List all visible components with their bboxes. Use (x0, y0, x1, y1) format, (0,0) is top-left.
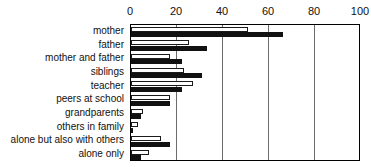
category-label-mother-and-father: mother and father (45, 52, 124, 63)
category-label-alone-but-also-with-others: alone but also with others (11, 134, 124, 145)
bar-group-mother-and-father (131, 52, 359, 66)
bar-solid-alone-but-also-with-others (131, 142, 170, 147)
bar-open-teacher (131, 81, 193, 86)
bar-open-siblings (131, 68, 184, 73)
bar-solid-teacher (131, 87, 182, 92)
bar-open-peers-at-school (131, 95, 170, 100)
bar-solid-others-in-family (131, 128, 133, 133)
bar-solid-mother-and-father (131, 59, 182, 64)
x-axis-tick-labels: 020406080100 (0, 4, 371, 22)
bar-group-grandparents (131, 107, 359, 121)
category-label-grandparents: grandparents (65, 107, 124, 118)
bar-solid-grandparents (131, 114, 141, 119)
category-label-alone-only: alone only (78, 148, 124, 159)
bar-group-father (131, 39, 359, 53)
x-tick-label-80: 80 (308, 4, 320, 18)
bar-group-mother (131, 25, 359, 39)
x-tick-label-40: 40 (216, 4, 228, 18)
bar-open-mother-and-father (131, 54, 170, 59)
bar-solid-mother (131, 32, 283, 37)
x-tick-label-60: 60 (262, 4, 274, 18)
category-label-mother: mother (93, 25, 124, 36)
bar-chart: 020406080100 motherfathermother and fath… (0, 0, 371, 167)
bar-series-container (131, 25, 359, 160)
category-label-father: father (98, 39, 124, 50)
bar-open-alone-only (131, 150, 149, 155)
bar-open-alone-but-also-with-others (131, 136, 161, 141)
bar-solid-siblings (131, 73, 202, 78)
category-label-teacher: teacher (91, 80, 124, 91)
bar-group-peers-at-school (131, 94, 359, 108)
x-tick-label-100: 100 (351, 4, 369, 18)
bar-solid-peers-at-school (131, 101, 170, 106)
bar-group-siblings (131, 66, 359, 80)
bar-group-alone-but-also-with-others (131, 135, 359, 149)
bar-group-teacher (131, 80, 359, 94)
bar-open-grandparents (131, 109, 143, 114)
x-tick-label-20: 20 (170, 4, 182, 18)
bar-solid-alone-only (131, 155, 141, 160)
category-label-others-in-family: others in family (57, 121, 124, 132)
bar-group-alone-only (131, 148, 359, 162)
x-tick-label-0: 0 (127, 4, 133, 18)
category-label-peers-at-school: peers at school (56, 93, 124, 104)
category-label-siblings: siblings (91, 66, 124, 77)
bar-solid-father (131, 46, 207, 51)
bar-group-others-in-family (131, 121, 359, 135)
category-axis-labels: motherfathermother and fathersiblingstea… (0, 24, 127, 161)
bar-open-others-in-family (131, 122, 138, 127)
bar-open-father (131, 40, 189, 45)
bar-open-mother (131, 27, 248, 32)
